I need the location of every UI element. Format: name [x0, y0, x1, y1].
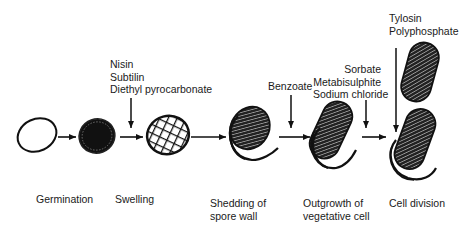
stage-label-germination: Germination [36, 193, 93, 206]
inhibitor-label: Sorbate [313, 63, 381, 76]
stage-label-line: Outgrowth of [303, 197, 370, 210]
swollen-spore-icon [143, 111, 193, 159]
stage-label-division: Cell division [389, 197, 445, 210]
inhibitor-label: Metabisulphite [313, 76, 381, 89]
germinated-spore-icon [74, 114, 119, 158]
inhibitor-label-group-2: Benzoate [268, 80, 312, 93]
outgrowth-cell-icon [305, 96, 358, 168]
dividing-cells-icon [390, 39, 442, 180]
inhibitor-label: Nisin [110, 58, 212, 71]
stage-label-line: Shedding of [210, 197, 266, 210]
inhibitor-label: Polyphosphate [389, 25, 458, 38]
inhibitor-label: Subtilin [110, 71, 212, 84]
inhibitor-label: Sodium chloride [313, 88, 381, 101]
inhibitor-label-group-1: Nisin Subtilin Diethyl pyrocarbonate [110, 58, 212, 96]
inhibitor-label-group-3: Sorbate Metabisulphite Sodium chloride [313, 63, 381, 101]
shedding-cell-icon [223, 99, 278, 160]
stage-label-swelling: Swelling [115, 193, 154, 206]
inhibitor-label: Diethyl pyrocarbonate [110, 83, 212, 96]
stage-label-line: spore wall [210, 210, 266, 223]
stage-label-shedding: Shedding of spore wall [210, 197, 266, 222]
stage-label-outgrowth: Outgrowth of vegetative cell [303, 197, 370, 222]
inhibitor-label-group-4: Tylosin Polyphosphate [389, 12, 458, 37]
inhibitor-label: Tylosin [389, 12, 458, 25]
stage-label-line: vegetative cell [303, 210, 370, 223]
dormant-spore-icon [12, 112, 62, 158]
inhibitor-label: Benzoate [268, 80, 312, 93]
